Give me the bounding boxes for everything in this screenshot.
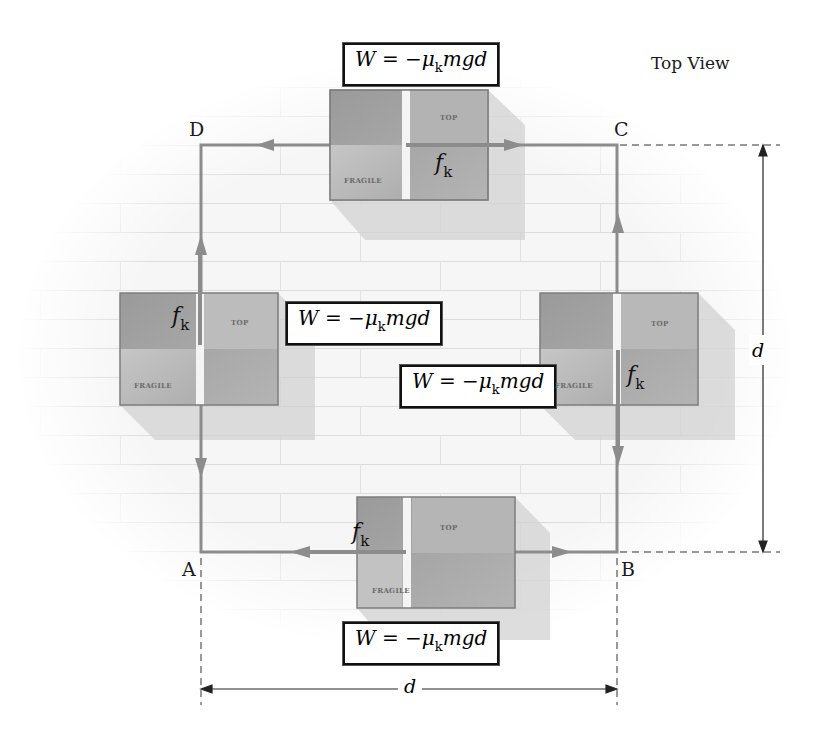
point-b-label: B — [621, 558, 635, 580]
box-top-fragile-stamp: FRAGILE — [344, 176, 382, 185]
friction-label-top: fk — [435, 150, 452, 181]
friction-label-right: fk — [627, 362, 644, 393]
point-d-label: D — [189, 118, 204, 140]
box-right-top-stamp: TOP — [651, 319, 668, 328]
box-left-top-stamp: TOP — [231, 318, 248, 327]
view-title: Top View — [651, 53, 730, 73]
work-equation-top: W = −μkmgd — [343, 43, 499, 86]
box-bottom-fragile-stamp: FRAGILE — [372, 586, 410, 595]
box-right-fragile-stamp: FRAGILE — [555, 381, 593, 390]
box-bottom-top-stamp: TOP — [440, 523, 457, 532]
work-equation-left: W = −μkmgd — [286, 302, 442, 345]
point-a-label: A — [182, 558, 196, 580]
diagram-canvas: Top View D C A B W = −μkmgd W = −μkmgd W… — [0, 0, 829, 742]
point-c-label: C — [614, 118, 629, 140]
box-top-top-stamp: TOP — [440, 113, 457, 122]
work-equation-right: W = −μkmgd — [400, 365, 556, 408]
box-left-fragile-stamp: FRAGILE — [134, 381, 172, 390]
friction-label-left: fk — [172, 303, 189, 334]
friction-label-bottom: fk — [352, 519, 369, 550]
horizontal-dimension-label: d — [398, 675, 422, 697]
work-equation-bottom: W = −μkmgd — [343, 622, 499, 665]
vertical-dimension-label: d — [749, 335, 767, 365]
